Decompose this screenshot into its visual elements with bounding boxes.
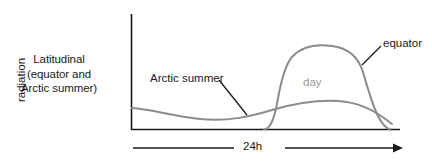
curve-label-day: day [303, 76, 322, 88]
leader-line-arctic-summer [219, 80, 247, 115]
curve-label-equator: equator [383, 37, 422, 49]
curve-label-arctic-summer: Arctic summer [150, 72, 223, 84]
curve-arctic-summer [132, 101, 392, 124]
duration-arrowhead-icon [393, 144, 403, 153]
curve-equator [264, 45, 390, 129]
x-axis-label: 24h [243, 140, 262, 152]
latitudinal-radiation-figure: Latitudinal (equator and Arctic summer) … [0, 0, 432, 165]
leader-line-equator [362, 46, 381, 65]
